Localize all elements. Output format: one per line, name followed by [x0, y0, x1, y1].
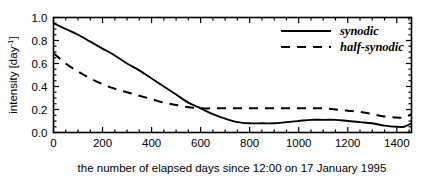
x-tick-label: 1400 — [384, 137, 410, 149]
legend-label-half-synodic: half-synodic — [340, 40, 404, 54]
chart-svg: 0200400600800100012001400 0.00.20.40.60.… — [0, 0, 431, 182]
data-series-group — [54, 23, 412, 127]
x-tick-label: 200 — [93, 137, 112, 149]
y-axis-title: intensity [day-1] — [6, 36, 19, 113]
x-tick-label: 600 — [191, 137, 210, 149]
x-axis-title: the number of elapsed days since 12:00 o… — [78, 162, 387, 174]
x-tick-label: 1000 — [286, 137, 312, 149]
x-tick-label: 0 — [50, 137, 56, 149]
series-line-half-synodic — [54, 53, 412, 118]
y-tick-label: 0.8 — [32, 35, 48, 47]
x-tick-label: 1200 — [335, 137, 361, 149]
x-tick-labels: 0200400600800100012001400 — [50, 137, 409, 149]
x-tick-label: 400 — [142, 137, 161, 149]
y-tick-label: 1.0 — [32, 12, 48, 24]
chart-legend: synodic half-synodic — [281, 24, 404, 54]
series-line-synodic — [54, 23, 412, 127]
y-tick-label: 0.6 — [32, 58, 48, 70]
legend-label-synodic: synodic — [339, 24, 379, 38]
y-tick-label: 0.2 — [32, 104, 48, 116]
y-tick-labels: 0.00.20.40.60.81.0 — [32, 12, 49, 139]
y-tick-label: 0.0 — [32, 127, 48, 139]
chart-figure: 0200400600800100012001400 0.00.20.40.60.… — [0, 0, 431, 182]
y-tick-label: 0.4 — [32, 81, 49, 93]
x-tick-label: 800 — [240, 137, 259, 149]
